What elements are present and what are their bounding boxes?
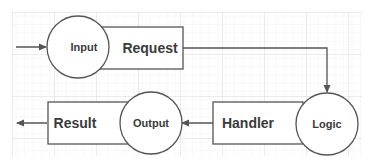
request-label: Request [122,40,178,56]
diagram-canvas: Input Request Logic Handler Output Resul… [0,0,373,165]
output-label: Output [133,117,169,129]
diagram-svg: Input Request Logic Handler Output Resul… [0,0,373,165]
handler-label: Handler [222,115,275,131]
input-label: Input [71,41,98,53]
result-label: Result [54,115,97,131]
logic-label: Logic [312,118,341,130]
